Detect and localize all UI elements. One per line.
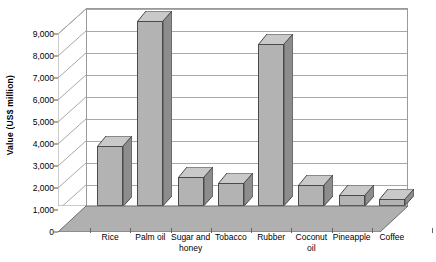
bar-front-face <box>258 44 284 206</box>
x-tick-label: Coffee <box>372 232 412 243</box>
y-tick-label: 1,000 <box>33 205 54 215</box>
x-tick-mark <box>171 228 172 233</box>
x-tick-label: Rubber <box>251 232 291 243</box>
y-axis-title-text: Value (US$ million) <box>5 75 15 155</box>
y-tick-label: 3,000 <box>33 161 54 171</box>
floor-shape <box>58 202 408 232</box>
bar-side-face <box>283 34 293 206</box>
x-tick-mark <box>130 228 131 233</box>
y-tick-label: 7,000 <box>33 73 54 83</box>
y-tick-label: 5,000 <box>33 117 54 127</box>
x-tick-label: Sugar and honey <box>171 232 211 254</box>
x-tick-label: Coconut oil <box>291 232 331 254</box>
bar-rice[interactable] <box>97 146 123 207</box>
x-tick-mark <box>432 228 433 233</box>
bar-side-face <box>122 136 132 207</box>
x-tick-mark <box>251 228 252 233</box>
bar-chart: Value (US$ million) 01,0002,0003,0004,00… <box>0 0 436 262</box>
floor-plane <box>58 202 408 232</box>
bar-side-face <box>203 167 213 206</box>
x-tick-mark <box>90 228 91 233</box>
y-tick-label: 9,000 <box>33 29 54 39</box>
bar-body <box>97 146 123 207</box>
plot-area <box>58 8 410 232</box>
x-axis-labels: RicePalm oilSugar and honeyTobaccoRubber… <box>58 232 436 262</box>
x-tick-label: Tobacco <box>211 232 251 243</box>
x-tick-mark <box>332 228 333 233</box>
y-tick-label: 2,000 <box>33 183 54 193</box>
y-tick-label: 4,000 <box>33 139 54 149</box>
side-wall-shape <box>58 8 87 206</box>
x-tick-label: Palm oil <box>130 232 170 243</box>
y-tick-label: 6,000 <box>33 95 54 105</box>
left-side-wall <box>58 8 87 206</box>
bar-body <box>137 21 163 206</box>
x-tick-mark <box>211 228 212 233</box>
bar-palm-oil[interactable] <box>137 21 163 206</box>
bar-series <box>86 8 408 206</box>
y-tick-label: 8,000 <box>33 51 54 61</box>
x-tick-label: Rice <box>90 232 130 243</box>
bar-front-face <box>137 21 163 206</box>
y-axis-ticks: 01,0002,0003,0004,0005,0006,0007,0008,00… <box>16 0 58 232</box>
bar-rubber[interactable] <box>258 44 284 206</box>
bar-front-face <box>97 146 123 207</box>
x-tick-mark <box>372 228 373 233</box>
x-tick-label: Pineapple <box>332 232 372 243</box>
bar-side-face <box>162 11 172 206</box>
x-tick-mark <box>291 228 292 233</box>
bar-body <box>258 44 284 206</box>
